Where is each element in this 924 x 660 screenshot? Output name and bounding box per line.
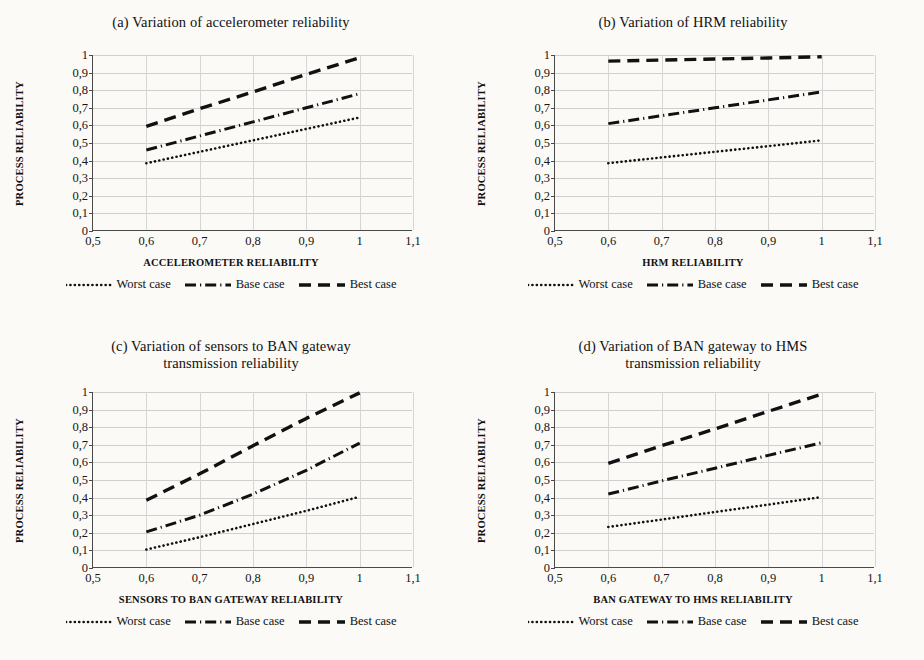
legend: Worst caseBase caseBest case	[462, 614, 924, 629]
plot-area-a: 00,10,20,30,40,50,60,70,80,910,50,60,70,…	[92, 55, 412, 231]
panel-a-plot: 00,10,20,30,40,50,60,70,80,910,50,60,70,…	[0, 0, 462, 330]
y-tick-label: 0,5	[534, 136, 555, 151]
x-axis-title: ACCELEROMETER RELIABILITY	[0, 257, 462, 268]
y-tick-label: 0,6	[534, 455, 555, 470]
y-axis-title: PROCESS RELIABILITY	[14, 61, 25, 227]
series-layer	[555, 392, 875, 568]
x-gridline	[413, 392, 414, 567]
y-tick-label: 0,3	[534, 508, 555, 523]
legend-item-base-case[interactable]: Base case	[647, 277, 747, 292]
legend-swatch-dashed-icon	[761, 280, 807, 290]
panel-d: (d) Variation of BAN gateway to HMS tran…	[462, 330, 924, 660]
y-tick-label: 0,3	[534, 171, 555, 186]
x-tick-label: 0,5	[547, 234, 563, 249]
legend-swatch-dotted-icon	[66, 617, 112, 627]
x-tick-label: 0,6	[601, 571, 617, 586]
series-line-best-case	[608, 57, 821, 61]
series-layer	[555, 55, 875, 231]
legend-item-best-case[interactable]: Best case	[299, 277, 397, 292]
legend-swatch-dotted-icon	[66, 280, 112, 290]
figure-panels-grid: (a) Variation of accelerometer reliabili…	[0, 0, 924, 660]
x-tick-label: 0,9	[761, 571, 777, 586]
legend-item-base-case[interactable]: Base case	[185, 277, 285, 292]
series-line-base-case	[146, 443, 359, 532]
legend-item-worst-case[interactable]: Worst case	[528, 614, 633, 629]
x-tick-label: 1,1	[867, 571, 883, 586]
legend-label: Best case	[350, 277, 397, 292]
legend-label: Worst case	[117, 614, 171, 629]
y-tick-label: 0,9	[72, 402, 93, 417]
legend: Worst caseBase caseBest case	[0, 277, 462, 292]
legend-item-best-case[interactable]: Best case	[761, 614, 859, 629]
legend: Worst caseBase caseBest case	[462, 277, 924, 292]
x-tick-label: 0,6	[139, 571, 155, 586]
x-tick-label: 0,8	[707, 571, 723, 586]
legend-item-worst-case[interactable]: Worst case	[528, 277, 633, 292]
x-gridline	[875, 392, 876, 567]
y-tick-label: 0,2	[534, 525, 555, 540]
y-tick-label: 0,1	[72, 206, 93, 221]
legend-label: Base case	[698, 277, 747, 292]
x-tick-label: 1	[819, 571, 825, 586]
x-tick-label: 1,1	[405, 234, 421, 249]
legend-label: Worst case	[579, 277, 633, 292]
x-gridline	[413, 55, 414, 230]
series-line-worst-case	[146, 117, 359, 163]
series-layer	[93, 55, 413, 231]
legend-item-base-case[interactable]: Base case	[647, 614, 747, 629]
legend-swatch-dotted-icon	[528, 280, 574, 290]
x-tick-label: 0,7	[192, 234, 208, 249]
x-tick-label: 0,6	[139, 234, 155, 249]
y-tick-label: 1	[82, 385, 93, 400]
y-tick-label: 0,9	[72, 65, 93, 80]
series-layer	[93, 392, 413, 568]
legend-swatch-dashed-icon	[761, 617, 807, 627]
legend-swatch-dashdot-icon	[647, 617, 693, 627]
x-gridline	[875, 55, 876, 230]
legend-label: Best case	[812, 277, 859, 292]
y-tick-label: 0,7	[72, 437, 93, 452]
y-tick-label: 0,1	[534, 206, 555, 221]
series-line-worst-case	[608, 497, 821, 527]
x-tick-label: 0,5	[85, 571, 101, 586]
panel-b: (b) Variation of HRM reliability 00,10,2…	[462, 0, 924, 330]
y-tick-label: 0,1	[534, 543, 555, 558]
y-tick-label: 1	[82, 48, 93, 63]
y-tick-label: 1	[544, 48, 555, 63]
x-tick-label: 0,9	[299, 571, 315, 586]
legend-label: Best case	[812, 614, 859, 629]
x-tick-label: 0,5	[547, 571, 563, 586]
y-tick-label: 0,6	[72, 118, 93, 133]
x-tick-label: 0,8	[245, 571, 261, 586]
legend-item-worst-case[interactable]: Worst case	[66, 614, 171, 629]
y-tick-label: 0,2	[72, 525, 93, 540]
legend-item-worst-case[interactable]: Worst case	[66, 277, 171, 292]
x-tick-label: 1	[819, 234, 825, 249]
plot-area-d: 00,10,20,30,40,50,60,70,80,910,50,60,70,…	[554, 392, 874, 568]
y-tick-label: 0,3	[72, 171, 93, 186]
y-axis-title: PROCESS RELIABILITY	[14, 398, 25, 564]
y-tick-label: 0,9	[534, 402, 555, 417]
y-tick-label: 0,7	[534, 437, 555, 452]
legend-item-best-case[interactable]: Best case	[761, 277, 859, 292]
x-axis-title: BAN GATEWAY TO HMS RELIABILITY	[462, 594, 924, 605]
y-tick-label: 0,4	[534, 153, 555, 168]
y-tick-label: 1	[544, 385, 555, 400]
y-tick-label: 0,4	[72, 490, 93, 505]
x-axis-title: HRM RELIABILITY	[462, 257, 924, 268]
legend-item-best-case[interactable]: Best case	[299, 614, 397, 629]
legend-swatch-dotted-icon	[528, 617, 574, 627]
legend-swatch-dashed-icon	[299, 617, 345, 627]
legend-swatch-dashdot-icon	[185, 280, 231, 290]
x-tick-label: 0,5	[85, 234, 101, 249]
y-tick-label: 0,2	[72, 188, 93, 203]
legend-swatch-dashdot-icon	[647, 280, 693, 290]
x-tick-label: 0,9	[299, 234, 315, 249]
y-axis-title: PROCESS RELIABILITY	[476, 398, 487, 564]
legend-item-base-case[interactable]: Base case	[185, 614, 285, 629]
y-tick-label: 0,5	[72, 136, 93, 151]
x-tick-label: 0,6	[601, 234, 617, 249]
legend-label: Base case	[236, 614, 285, 629]
series-line-worst-case	[608, 140, 821, 163]
panel-d-plot: 00,10,20,30,40,50,60,70,80,910,50,60,70,…	[462, 330, 924, 660]
